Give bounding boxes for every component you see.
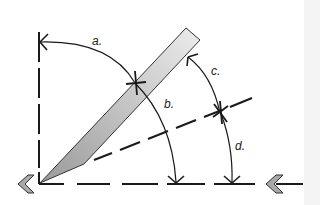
arc-d <box>221 114 232 182</box>
label-d: d. <box>235 140 245 152</box>
direction-arrow-icon <box>266 175 303 193</box>
blade-shape <box>40 28 200 183</box>
angle-diagram <box>0 0 320 205</box>
chevron-left-icon <box>18 175 34 193</box>
label-c: c. <box>211 65 220 77</box>
arc-a <box>40 42 135 83</box>
label-a: a. <box>92 35 102 47</box>
label-b: b. <box>164 98 174 110</box>
diagram-canvas: a. b. c. d. <box>0 0 320 205</box>
